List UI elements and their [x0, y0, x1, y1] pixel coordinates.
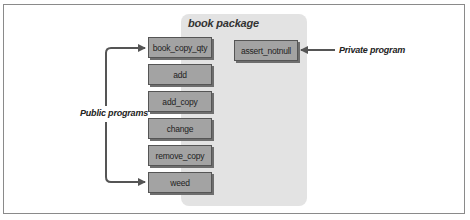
private-program-label: Private program: [339, 45, 405, 55]
arrow-to-book-copy-qty: [106, 48, 145, 106]
arrow-to-weed: [106, 122, 145, 182]
public-programs-label: Public programs: [80, 108, 148, 118]
connector-arrows: [0, 0, 470, 220]
